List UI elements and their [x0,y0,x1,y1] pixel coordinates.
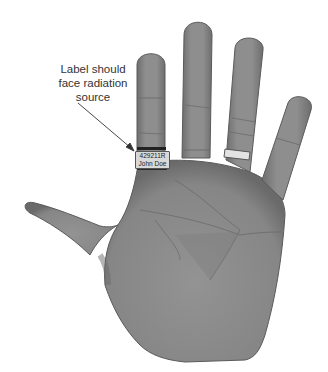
pointer-arrow [78,103,134,151]
pinky-finger [262,97,311,200]
annotation-line-3: source [28,90,158,104]
annotation-line-2: face radiation [28,76,158,90]
thumb [25,202,118,255]
middle-finger [182,22,212,158]
ring-label-id: 429211R [136,152,169,160]
hand-illustration [0,0,328,372]
dosimeter-ring-label: 429211R John Doe [135,151,170,169]
annotation-line-1: Label should [28,62,158,76]
palm [105,160,285,362]
ring-label-name: John Doe [136,160,169,168]
annotation-text: Label should face radiation source [28,62,158,104]
